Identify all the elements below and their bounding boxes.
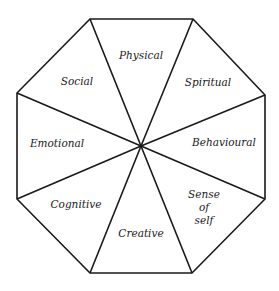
segment-label-behavioural: Behavioural <box>192 136 256 149</box>
segment-label-spiritual: Spiritual <box>185 76 231 89</box>
segment-label-creative: Creative <box>118 227 163 240</box>
segment-label-cognitive: Cognitive <box>51 198 102 211</box>
segment-label-emotional: Emotional <box>30 137 84 150</box>
segment-label-social: Social <box>61 75 93 88</box>
center-point <box>139 144 142 147</box>
segment-label-sense-of-self: Sense of self <box>188 188 220 227</box>
segment-label-physical: Physical <box>119 49 163 62</box>
